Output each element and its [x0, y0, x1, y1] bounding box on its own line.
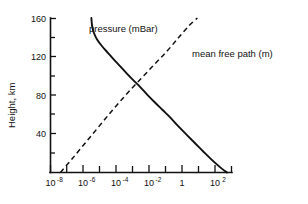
series-annotation-mean-free-path: mean free path (m) [192, 48, 273, 59]
series-annotation-pressure: pressure (mBar) [89, 23, 158, 34]
x-tick-base-2: 10 [111, 178, 121, 188]
x-tick-base-1: 10 [78, 178, 88, 188]
x-tick-label-1: 1 [179, 178, 184, 188]
y-tick-label-120: 120 [31, 52, 46, 62]
atmosphere-pressure-mean-free-path-chart: 160 120 80 40 Height, km 10 -8 10 -6 10 … [0, 0, 308, 204]
y-tick-label-160: 160 [31, 14, 46, 24]
x-tick-base-5: 10 [210, 178, 220, 188]
y-tick-label-80: 80 [36, 91, 46, 101]
y-axis-title: Height, km [6, 83, 17, 128]
x-tick-base-4: 1 [179, 178, 184, 188]
x-tick-exp-3: -2 [156, 176, 162, 183]
x-tick-exp-5: 2 [222, 176, 226, 183]
x-tick-exp-1: -6 [90, 176, 96, 183]
x-tick-exp-0: -8 [57, 176, 63, 183]
x-tick-exp-2: -4 [123, 176, 129, 183]
y-tick-label-40: 40 [36, 129, 46, 139]
x-tick-base-0: 10 [45, 178, 55, 188]
x-tick-base-3: 10 [144, 178, 154, 188]
